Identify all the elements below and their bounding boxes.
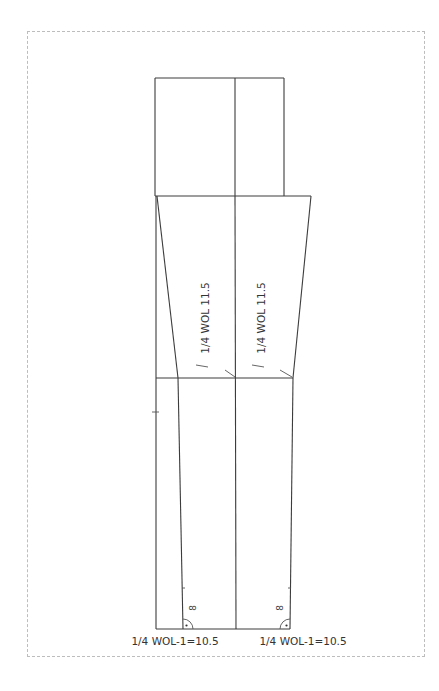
right-leg-line: [290, 378, 293, 629]
hem-label-left: 1/4 WOL-1=10.5: [131, 635, 218, 647]
right-angle-mark-right: [280, 619, 290, 629]
center-line: [235, 196, 236, 629]
right-angle-mark-left: [183, 619, 193, 629]
left-taper-line: [157, 196, 178, 378]
hem-mark-right: 8: [275, 605, 285, 611]
panel-label-right: 1/4 WOL 11.5: [255, 282, 267, 353]
hem-mark-left: 8: [188, 605, 198, 611]
pattern-drawing: 8 8 1/4 WOL 11.5 1/4 WOL 11.5 1/4 WOL-1=…: [0, 0, 439, 691]
right-taper-line: [293, 196, 311, 378]
notch-marks: [196, 365, 292, 377]
top-rectangle: [155, 78, 284, 196]
hem-label-right: 1/4 WOL-1=10.5: [259, 635, 346, 647]
left-inner-leg-line: [178, 378, 183, 629]
panel-label-left: 1/4 WOL 11.5: [199, 282, 211, 353]
